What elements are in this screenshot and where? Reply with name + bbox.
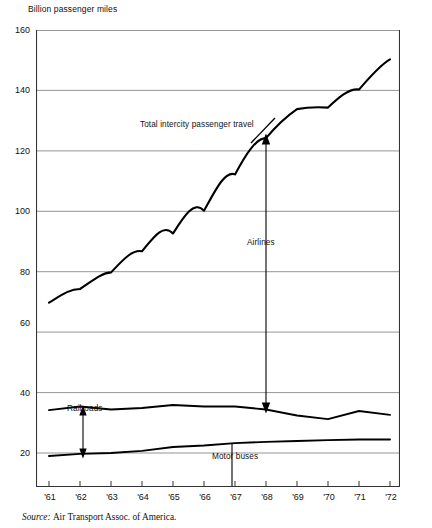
y-tick-label-160: 160: [4, 25, 30, 35]
x-tick-label-63: '63: [97, 492, 127, 502]
source-text: Air Transport Assoc. of America.: [53, 512, 176, 522]
axis-lines: [36, 30, 400, 487]
y-tick-label-80: 80: [4, 267, 30, 277]
annotation-label-airlines: Airlines: [247, 238, 275, 247]
x-tick-label-69: '69: [283, 492, 313, 502]
x-tick-label-67: '67: [221, 492, 251, 502]
y-tick-label-120: 120: [4, 146, 30, 156]
x-tick-label-71: '71: [345, 492, 375, 502]
x-tick-label-68: '68: [252, 492, 282, 502]
x-tick-label-62: '62: [66, 492, 96, 502]
x-tick-label-72: '72: [376, 492, 406, 502]
chart-axis-title: Billion passenger miles: [28, 4, 117, 14]
annotation-label-motor-buses: Motor buses: [212, 452, 258, 461]
source-prefix: Source:: [22, 512, 51, 522]
series-line-total-intercity-passenger-travel: [49, 59, 390, 302]
annotation-label-railroads: Railroads: [67, 404, 103, 413]
y-tick-label-40: 40: [4, 388, 30, 398]
chart-source-note: Source: Air Transport Assoc. of America.: [22, 512, 176, 522]
y-tick-label-100: 100: [4, 206, 30, 216]
plot-area: [36, 30, 400, 487]
y-tick-label-140: 140: [4, 85, 30, 95]
y-tick-label-20: 20: [4, 448, 30, 458]
plot-svg: [36, 30, 400, 487]
annotation-arrow-railroads: [80, 407, 86, 457]
annotation-label-total-travel: Total intercity passenger travel: [140, 120, 254, 129]
x-tick-label-65: '65: [159, 492, 189, 502]
x-tick-label-64: '64: [128, 492, 158, 502]
x-tick-label-66: '66: [190, 492, 220, 502]
y-tick-label-60: 60: [4, 318, 30, 328]
x-tick-label-70: '70: [314, 492, 344, 502]
chart-figure: Billion passenger miles 160 140 120 100 …: [0, 0, 432, 528]
annotation-arrow-airlines: [263, 135, 270, 412]
x-tick-label-61: '61: [35, 492, 65, 502]
